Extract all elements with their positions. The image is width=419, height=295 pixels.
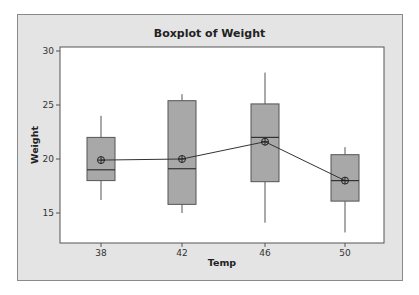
y-tick-label: 25 bbox=[43, 100, 54, 110]
x-tick-label: 42 bbox=[176, 248, 187, 258]
x-tick-label: 50 bbox=[339, 248, 351, 258]
iqr-box bbox=[168, 101, 196, 205]
mean-marker-icon bbox=[179, 156, 186, 163]
y-tick-label: 15 bbox=[43, 208, 54, 218]
y-tick-label: 30 bbox=[43, 46, 55, 56]
x-tick-label: 38 bbox=[95, 248, 107, 258]
x-tick-label: 46 bbox=[259, 248, 271, 258]
boxplot-chart: 15202530 38424650 Temp Weight bbox=[0, 0, 419, 295]
x-axis-label: Temp bbox=[208, 257, 237, 268]
y-axis-label: Weight bbox=[29, 126, 40, 164]
x-axis: 38424650 bbox=[95, 243, 351, 258]
mean-marker-icon bbox=[342, 177, 349, 184]
mean-marker-icon bbox=[262, 138, 269, 145]
y-axis: 15202530 bbox=[43, 46, 60, 218]
mean-marker-icon bbox=[98, 157, 105, 164]
y-tick-label: 20 bbox=[43, 154, 55, 164]
box-42 bbox=[168, 94, 196, 213]
